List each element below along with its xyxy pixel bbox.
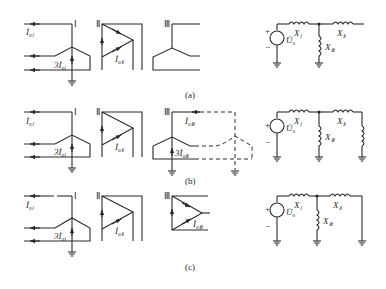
winding-1-grounded-wye: Ⅰ İ0Ⅰ 3İ0Ⅰ bbox=[24, 19, 90, 85]
three-winding-transformer-zero-sequence-diagram: Ⅰ İ0Ⅰ 3İ0Ⅰ Ⅱ İ0Ⅱ Ⅲ bbox=[0, 0, 386, 289]
external-grounded-load-dashed bbox=[195, 112, 252, 175]
equivalent-circuit-a: + − U̇0 XⅠ XⅡ XⅢ bbox=[265, 22, 364, 67]
current-label-i0-2: İ0Ⅱ bbox=[114, 54, 124, 65]
winding-3-ungrounded-wye: Ⅲ bbox=[153, 19, 200, 70]
current-label-i0-1: İ0Ⅰ bbox=[25, 27, 34, 38]
current-label-3i0-1: 3İ0Ⅰ bbox=[53, 60, 66, 71]
current-label-i0-3: İ0Ⅲ bbox=[184, 116, 195, 127]
current-label-3i0-1: 3İ0Ⅰ bbox=[53, 147, 66, 158]
winding-2-label: Ⅱ bbox=[96, 191, 100, 201]
panel-b: Ⅰ İ0Ⅰ 3İ0Ⅰ Ⅱ İ0Ⅱ Ⅲ İ0Ⅲ 3İ0Ⅲ bbox=[24, 107, 366, 186]
equivalent-circuit-c: + − U̇0 XⅠ XⅡ XⅢ bbox=[265, 194, 366, 245]
reactance-x1-label: XⅠ bbox=[293, 28, 302, 39]
minus-sign: − bbox=[265, 137, 270, 147]
winding-2-delta: Ⅱ İ0Ⅱ bbox=[96, 19, 142, 70]
caption-b: (b) bbox=[185, 176, 196, 186]
current-label-i0-1: İ0Ⅰ bbox=[25, 116, 34, 127]
reactance-x2-label: XⅡ bbox=[332, 200, 342, 211]
winding-1-grounded-wye: Ⅰ İ0Ⅰ 3İ0Ⅰ bbox=[24, 107, 90, 172]
caption-c: (c) bbox=[185, 262, 195, 272]
reactance-x3-label: XⅢ bbox=[324, 42, 335, 53]
reactance-x1-label: XⅠ bbox=[293, 116, 302, 127]
panel-c: Ⅰ İ0Ⅰ 3İ0Ⅰ Ⅱ İ0Ⅱ Ⅲ İ0Ⅲ bbox=[24, 191, 366, 272]
winding-1-grounded-wye: Ⅰ İ0Ⅰ 3İ0Ⅰ bbox=[24, 191, 90, 256]
reactance-x2-label: XⅡ bbox=[336, 28, 346, 39]
current-label-i0-1: İ0Ⅰ bbox=[25, 200, 34, 211]
current-label-3i0-3: 3İ0Ⅲ bbox=[174, 148, 189, 159]
minus-sign: − bbox=[265, 42, 270, 52]
winding-2-label: Ⅱ bbox=[96, 19, 100, 29]
caption-a: (a) bbox=[185, 90, 195, 100]
reactance-x2-label: XⅡ bbox=[336, 116, 346, 127]
current-label-3i0-1: 3İ0Ⅰ bbox=[53, 231, 66, 242]
winding-3-delta: Ⅲ İ0Ⅲ bbox=[164, 191, 210, 230]
winding-2-label: Ⅱ bbox=[96, 107, 100, 117]
winding-3-label: Ⅲ bbox=[164, 107, 170, 117]
plus-sign: + bbox=[265, 120, 270, 130]
winding-3-label: Ⅲ bbox=[164, 19, 170, 29]
winding-1-label: Ⅰ bbox=[74, 191, 77, 201]
winding-1-label: Ⅰ bbox=[74, 107, 77, 117]
reactance-x3-label: XⅢ bbox=[322, 216, 333, 227]
reactance-x3-label: XⅢ bbox=[324, 132, 335, 143]
equivalent-circuit-b: + − U̇0 XⅠ XⅡ XⅢ bbox=[265, 110, 366, 161]
reactance-x1-label: XⅠ bbox=[293, 200, 302, 211]
plus-sign: + bbox=[265, 204, 270, 214]
current-label-i0-2: İ0Ⅱ bbox=[114, 226, 124, 237]
current-label-i0-2: İ0Ⅱ bbox=[114, 142, 124, 153]
winding-2-delta: Ⅱ İ0Ⅱ bbox=[96, 191, 142, 241]
winding-3-label: Ⅲ bbox=[164, 191, 170, 201]
winding-3-grounded-wye: Ⅲ İ0Ⅲ 3İ0Ⅲ bbox=[153, 107, 252, 175]
panel-a: Ⅰ İ0Ⅰ 3İ0Ⅰ Ⅱ İ0Ⅱ Ⅲ bbox=[24, 19, 364, 100]
minus-sign: − bbox=[265, 221, 270, 231]
winding-2-delta: Ⅱ İ0Ⅱ bbox=[96, 107, 142, 157]
plus-sign: + bbox=[265, 26, 270, 36]
winding-1-label: Ⅰ bbox=[74, 19, 77, 29]
current-label-i0-3: İ0Ⅲ bbox=[192, 219, 203, 230]
